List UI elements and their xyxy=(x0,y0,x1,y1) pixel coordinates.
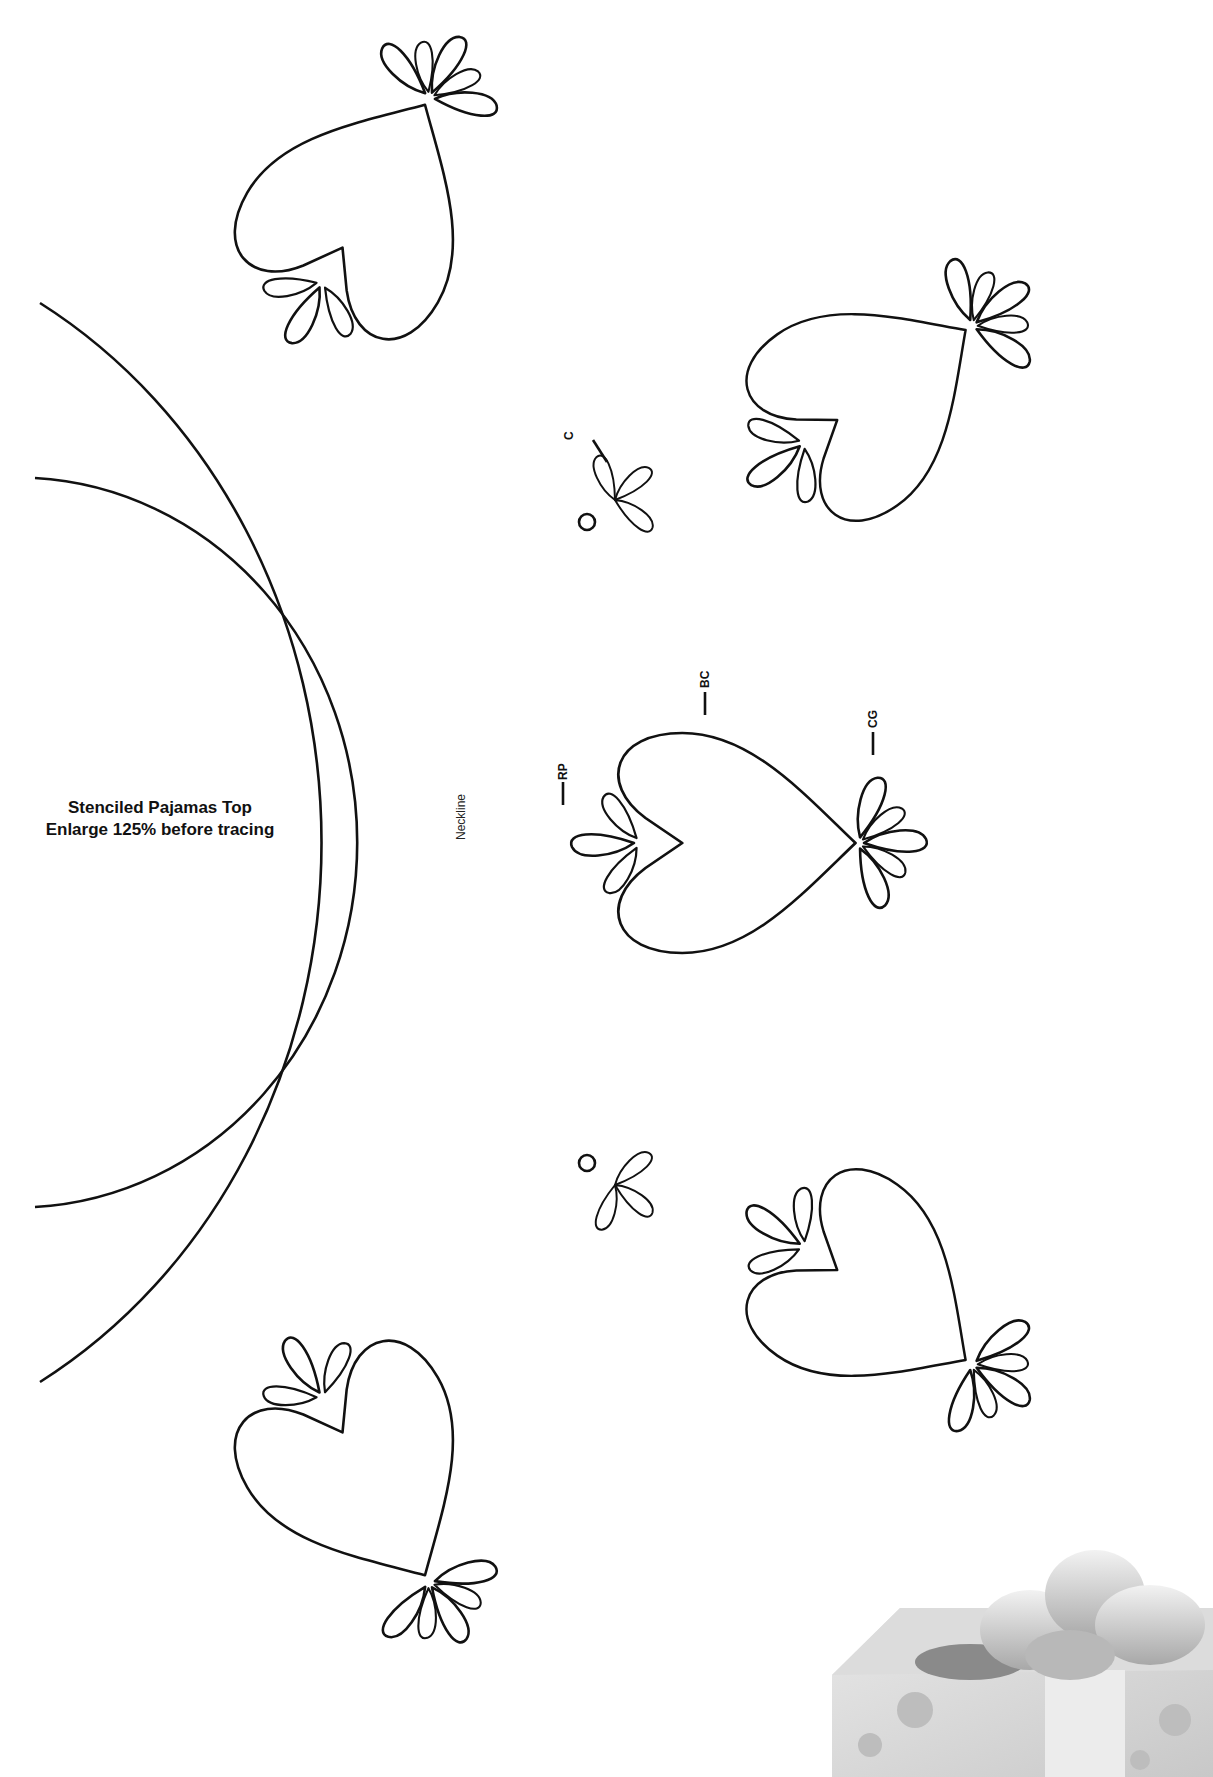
bottom-left-heart-motif xyxy=(193,1283,559,1697)
neckline-inner-arc xyxy=(35,478,357,1207)
stencil-pattern-artwork xyxy=(0,0,1213,1777)
gift-box-image xyxy=(820,1530,1213,1777)
label-bc: BC xyxy=(698,671,712,688)
neckline-outer-arc xyxy=(40,303,322,1382)
label-c: C xyxy=(562,431,576,440)
pattern-title: Stenciled Pajamas Top Enlarge 125% befor… xyxy=(10,797,310,841)
bottom-right-heart-motif xyxy=(688,1122,1088,1489)
label-rp: RP xyxy=(556,763,570,780)
title-line-1: Stenciled Pajamas Top xyxy=(10,797,310,819)
top-left-heart-motif xyxy=(193,0,559,397)
center-heart-motif xyxy=(571,733,927,953)
accent-motif-lower xyxy=(579,1147,657,1232)
title-line-2: Enlarge 125% before tracing xyxy=(10,819,310,841)
top-right-heart-motif xyxy=(688,201,1088,568)
label-cg: CG xyxy=(866,710,880,728)
accent-motif-upper xyxy=(579,440,657,535)
neckline-label: Neckline xyxy=(454,794,468,840)
